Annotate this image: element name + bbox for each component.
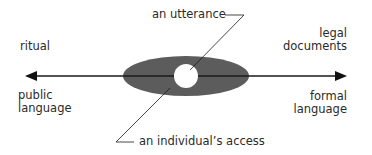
utterance-callout-label: an utterance	[152, 8, 226, 21]
individual-access-callout-label: an individual’s access	[139, 135, 265, 148]
public-language-label: public language	[18, 89, 72, 115]
formal-language-label: formal language	[293, 90, 347, 116]
language-continuum-diagram: ritual public language legal documents f…	[0, 0, 372, 155]
diagram-graphics	[0, 0, 372, 155]
left-arrowhead-icon	[25, 71, 37, 81]
ritual-label: ritual	[20, 40, 50, 53]
right-arrowhead-icon	[335, 71, 347, 81]
legal-documents-label: legal documents	[283, 27, 347, 53]
utterance-circle	[174, 64, 198, 88]
